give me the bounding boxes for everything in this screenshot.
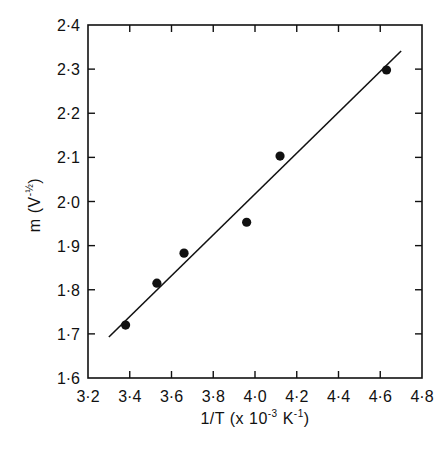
- y-tick-label: 1·8: [57, 282, 80, 299]
- data-point: [275, 151, 284, 160]
- fit-line: [109, 51, 401, 337]
- y-tick-label: 2·4: [57, 17, 80, 34]
- x-tick-label: 4·8: [410, 388, 433, 405]
- x-tick-label: 4·4: [327, 388, 350, 405]
- data-point: [382, 65, 391, 74]
- axes-box: [88, 25, 422, 378]
- y-tick-label: 2·1: [57, 149, 80, 166]
- y-tick-label: 1·9: [57, 238, 80, 255]
- scatter-chart: 3·23·43·63·84·04·24·44·64·8 1·61·71·81·9…: [0, 0, 446, 452]
- axis-ticks: [88, 25, 422, 378]
- data-points: [121, 65, 391, 329]
- y-tick-label: 2·2: [57, 105, 80, 122]
- data-point: [179, 249, 188, 258]
- y-tick-label: 2·0: [57, 194, 80, 211]
- x-tick-label: 3·4: [118, 388, 141, 405]
- x-tick-label: 3·6: [160, 388, 183, 405]
- data-point: [121, 320, 130, 329]
- fit-line-segment: [109, 51, 401, 337]
- x-tick-label: 3·2: [76, 388, 99, 405]
- y-tick-label: 1·7: [57, 326, 80, 343]
- y-tick-label: 1·6: [57, 370, 80, 387]
- y-tick-label: 2·3: [57, 61, 80, 78]
- x-tick-labels: 3·23·43·63·84·04·24·44·64·8: [76, 388, 433, 405]
- data-point: [152, 279, 161, 288]
- x-tick-label: 3·8: [202, 388, 225, 405]
- x-tick-label: 4·6: [369, 388, 392, 405]
- data-point: [242, 218, 251, 227]
- plot-frame: [88, 25, 422, 378]
- y-axis-label: m (V-½): [24, 178, 43, 232]
- x-axis-label: 1/T (x 10-3 K-1): [200, 408, 309, 427]
- y-tick-labels: 1·61·71·81·92·02·12·22·32·4: [57, 17, 80, 387]
- x-tick-label: 4·2: [285, 388, 308, 405]
- x-tick-label: 4·0: [243, 388, 266, 405]
